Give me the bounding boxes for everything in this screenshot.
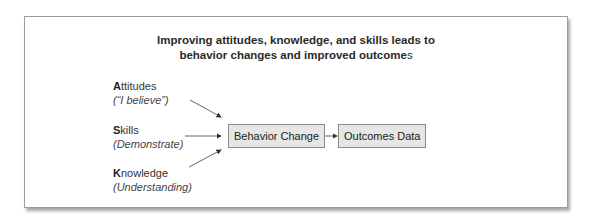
diagram-frame: Improving attitudes, knowledge, and skil… bbox=[24, 16, 568, 208]
arrows bbox=[25, 17, 567, 207]
behavior-change-box: Behavior Change bbox=[228, 124, 325, 148]
arrow-knowledge-to-behavior bbox=[189, 150, 221, 167]
arrow-attitudes-to-behavior bbox=[190, 100, 221, 117]
outcomes-data-box: Outcomes Data bbox=[338, 124, 426, 148]
